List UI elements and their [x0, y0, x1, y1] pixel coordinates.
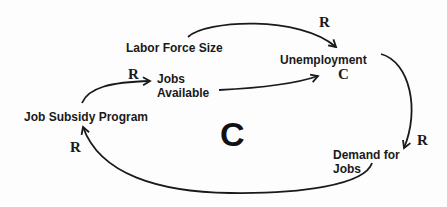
node-demand-for-jobs-line2: Jobs — [333, 162, 400, 176]
arrow-subsidy-to-jobs — [82, 81, 150, 103]
node-labor-force-size: Labor Force Size — [126, 41, 223, 55]
node-jobs-available-line2: Available — [157, 86, 209, 100]
polarity-subsidy-to-jobs: R — [128, 66, 139, 83]
node-unemployment: Unemployment — [280, 53, 367, 67]
arrow-jobs-to-unemployment — [219, 76, 318, 90]
node-job-subsidy-program: Job Subsidy Program — [24, 110, 148, 124]
polarity-demand-to-subsidy: R — [70, 139, 81, 156]
node-demand-for-jobs-line1: Demand for — [333, 148, 400, 162]
polarity-labor-to-unemployment: R — [319, 14, 330, 31]
polarity-unemployment-to-demand: R — [417, 132, 428, 149]
node-jobs-available-line1: Jobs — [157, 72, 209, 86]
polarity-jobs-to-unemployment: C — [338, 66, 349, 83]
node-jobs-available: Jobs Available — [157, 72, 209, 100]
loop-type-label: C — [220, 115, 245, 154]
node-demand-for-jobs: Demand for Jobs — [333, 148, 400, 176]
arrow-unemployment-to-demand — [381, 54, 412, 148]
causal-loop-diagram: Labor Force Size Unemployment Jobs Avail… — [0, 0, 447, 207]
